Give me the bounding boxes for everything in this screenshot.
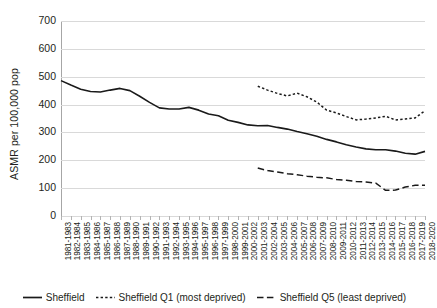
x-axis-tick-label: 2002-2004 (271, 222, 280, 260)
data-series-layer (61, 21, 425, 216)
x-axis-tick-label: 2017-2019 (419, 222, 428, 260)
x-axis-tick-label: 2004-2006 (291, 222, 300, 260)
x-axis-tick (307, 216, 308, 220)
series-line (61, 81, 425, 155)
x-axis-tick-label: 1985-1987 (104, 222, 113, 260)
x-axis-tick (238, 216, 239, 220)
x-axis-tick-label: 1991-1993 (163, 222, 172, 260)
x-axis-tick-label: 2003-2005 (281, 222, 290, 260)
y-axis-tick-labels: 7006005004003002001000 (30, 0, 56, 308)
y-axis-tick-label: 600 (30, 43, 56, 53)
x-axis-tick (189, 216, 190, 220)
legend-label: Sheffield Q5 (least deprived) (280, 292, 407, 303)
x-axis-tick (346, 216, 347, 220)
x-axis-tick-label: 2009-2011 (340, 222, 349, 260)
legend-item[interactable]: Sheffield Q1 (most deprived) (96, 292, 246, 303)
chart-legend: SheffieldSheffield Q1 (most deprived)She… (0, 288, 429, 306)
x-axis-tick (179, 216, 180, 220)
x-axis-tick (209, 216, 210, 220)
x-axis-tick-label: 2012-2014 (369, 222, 378, 260)
x-axis-tick (248, 216, 249, 220)
x-axis-tick (100, 216, 101, 220)
x-axis-tick (277, 216, 278, 220)
x-axis-tick (268, 216, 269, 220)
x-axis-tick-label: 2001-2003 (261, 222, 270, 260)
x-axis-tick-label: 1993-1995 (183, 222, 192, 260)
x-axis-tick (71, 216, 72, 220)
x-axis-tick-label: 2006-2008 (310, 222, 319, 260)
x-axis-tick-label: 2008-2010 (330, 222, 339, 260)
x-axis-tick-label: 2018-2020 (429, 222, 437, 260)
x-axis-tick (356, 216, 357, 220)
x-axis-tick-label: 1987-1989 (124, 222, 133, 260)
legend-item[interactable]: Sheffield (23, 292, 85, 303)
x-axis-tick (336, 216, 337, 220)
x-axis-tick (150, 216, 151, 220)
x-axis-tick (366, 216, 367, 220)
x-axis-tick (376, 216, 377, 220)
x-axis-tick (228, 216, 229, 220)
x-axis-tick-label: 1984-1986 (94, 222, 103, 260)
legend-swatch (23, 293, 42, 302)
x-axis-tick-label: 2010-2012 (350, 222, 359, 260)
x-axis-tick (327, 216, 328, 220)
legend-swatch (96, 293, 115, 302)
x-axis-tick-label: 2015-2017 (399, 222, 408, 260)
legend-label: Sheffield Q1 (most deprived) (119, 292, 246, 303)
legend-swatch (257, 293, 276, 302)
x-axis-tick-label: 2000-2002 (251, 222, 260, 260)
x-axis-tick (140, 216, 141, 220)
x-axis-tick (317, 216, 318, 220)
x-axis-tick-label: 2011-2013 (360, 222, 369, 260)
x-axis-tick-label: 1986-1988 (114, 222, 123, 260)
x-axis-tick (169, 216, 170, 220)
x-axis-tick-label: 1990-1992 (153, 222, 162, 260)
x-axis-tick-label: 1981-1983 (65, 222, 74, 260)
x-axis-tick (61, 216, 62, 220)
x-axis-tick-label: 2016-2018 (409, 222, 418, 260)
x-axis-tick-label: 1997-1999 (222, 222, 231, 260)
x-axis-tick (287, 216, 288, 220)
x-axis-tick (199, 216, 200, 220)
series-line (258, 86, 425, 120)
x-axis-tick (159, 216, 160, 220)
x-axis-tick-label: 2005-2007 (301, 222, 310, 260)
x-axis-tick-label: 1982-1984 (74, 222, 83, 260)
x-axis-tick (258, 216, 259, 220)
x-axis-tick-label: 1996-1998 (212, 222, 221, 260)
x-axis-tick-label: 1992-1994 (173, 222, 182, 260)
x-axis-tick-label: 2007-2009 (320, 222, 329, 260)
y-axis-tick-label: 0 (30, 210, 56, 220)
x-axis-tick-label: 2014-2016 (389, 222, 398, 260)
x-axis-tick (91, 216, 92, 220)
plot-area (61, 21, 425, 216)
x-axis-tick-label: 1994-1996 (192, 222, 201, 260)
y-axis-title: ASMR per 100,000 pop (8, 34, 20, 214)
x-axis-tick-label: 1983-1985 (84, 222, 93, 260)
y-axis-tick-label: 500 (30, 71, 56, 81)
legend-label: Sheffield (46, 292, 85, 303)
x-axis-tick-label: 1995-1997 (202, 222, 211, 260)
y-axis-tick-label: 100 (30, 182, 56, 192)
x-axis-tick-label: 1998-2000 (232, 222, 241, 260)
x-axis-tick (386, 216, 387, 220)
series-line (258, 168, 425, 190)
x-axis-tick (130, 216, 131, 220)
x-axis-tick-label: 1988-1990 (133, 222, 142, 260)
x-axis-tick-labels: 1981-19831982-19841983-19851984-19861985… (61, 222, 425, 284)
x-axis-tick (81, 216, 82, 220)
x-axis-tick (120, 216, 121, 220)
x-axis-tick (218, 216, 219, 220)
legend-item[interactable]: Sheffield Q5 (least deprived) (257, 292, 407, 303)
x-axis-tick-label: 1999-2001 (242, 222, 251, 260)
x-axis-tick-label: 2013-2015 (379, 222, 388, 260)
x-axis-tick (405, 216, 406, 220)
x-axis-tick (415, 216, 416, 220)
y-axis-tick-label: 300 (30, 126, 56, 136)
y-axis-tick-label: 200 (30, 154, 56, 164)
x-axis-tick (425, 216, 426, 220)
y-axis-tick-label: 400 (30, 99, 56, 109)
x-axis-tick (395, 216, 396, 220)
x-axis-tick (297, 216, 298, 220)
